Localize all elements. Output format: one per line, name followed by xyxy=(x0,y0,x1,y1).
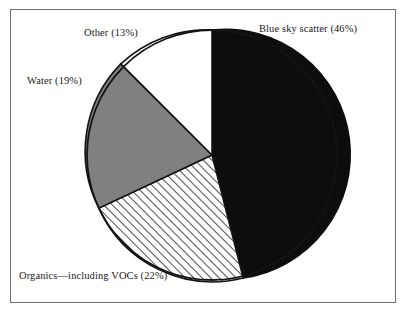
figure-page: Blue sky scatter (46%) Other (13%) Water… xyxy=(0,0,408,319)
pie-label-blue-sky-scatter: Blue sky scatter (46%) xyxy=(259,23,357,35)
pie-label-other: Other (13%) xyxy=(84,27,138,39)
pie-label-water: Water (19%) xyxy=(27,75,82,87)
pie-label-organics: Organics—including VOCs (22%) xyxy=(19,270,167,282)
